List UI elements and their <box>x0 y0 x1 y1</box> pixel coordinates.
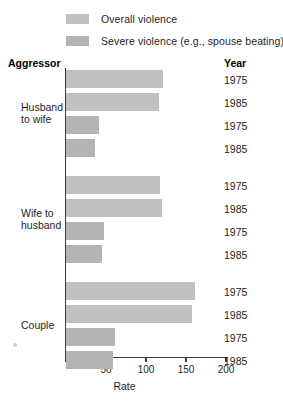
bar <box>66 116 99 134</box>
bar <box>66 305 192 323</box>
year-label: 1985 <box>224 309 247 321</box>
chart-figure: Overall violenceSevere violence (e.g., s… <box>0 0 283 403</box>
year-label: 1985 <box>224 249 247 261</box>
year-label: 1975 <box>224 74 247 86</box>
bar <box>66 139 95 157</box>
group-label: Couple <box>21 319 54 331</box>
bar <box>66 70 163 88</box>
year-label: 1975 <box>224 120 247 132</box>
year-label: 1985 <box>224 97 247 109</box>
x-axis-title: Rate <box>0 380 283 392</box>
bar <box>66 245 102 263</box>
bar <box>66 282 195 300</box>
x-tick-label-150: 150 <box>178 364 195 375</box>
scan-artifact-speck <box>13 343 17 347</box>
bar <box>66 328 115 346</box>
bar <box>66 351 113 369</box>
group-label: Husband to wife <box>21 101 63 125</box>
year-label: 1975 <box>224 286 247 298</box>
bar <box>66 222 104 240</box>
year-label: 1985 <box>224 143 247 155</box>
bar <box>66 176 160 194</box>
year-label: 1975 <box>224 332 247 344</box>
bar <box>66 199 162 217</box>
x-axis-title-text: Rate <box>113 380 135 392</box>
x-tick-150 <box>185 357 186 362</box>
x-tick-label-100: 100 <box>138 364 155 375</box>
bar <box>66 93 159 111</box>
year-label: 1985 <box>224 203 247 215</box>
year-label: 1975 <box>224 226 247 238</box>
year-label: 1985 <box>224 355 247 367</box>
year-label: 1975 <box>224 180 247 192</box>
x-tick-100 <box>145 357 146 362</box>
group-label: Wife to husband <box>21 207 61 231</box>
plot-area: 50100150200 Husband to wifeWife to husba… <box>0 0 283 403</box>
